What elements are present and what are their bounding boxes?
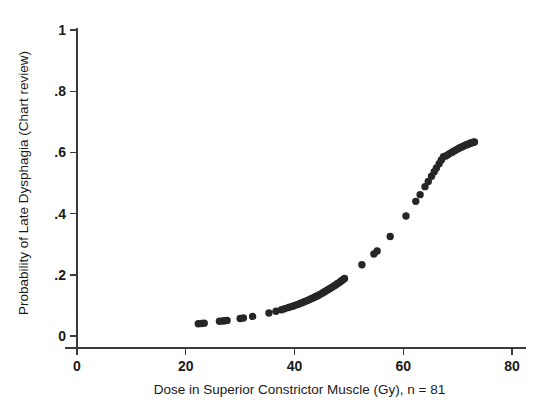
data-point — [265, 309, 272, 316]
data-point — [373, 247, 380, 254]
data-point — [358, 261, 365, 268]
y-tick-label-3: .6 — [54, 144, 66, 160]
y-tick-label-5: 1 — [58, 22, 66, 38]
axis-labels: 0.2.4.6.81020406080Dose in Superior Cons… — [16, 22, 520, 397]
data-point — [341, 275, 348, 282]
scatter-plot-figure: 0.2.4.6.81020406080Dose in Superior Cons… — [0, 0, 555, 403]
y-tick-label-2: .4 — [54, 206, 66, 222]
data-point — [223, 317, 230, 324]
y-axis-title: Probability of Late Dysphagia (Chart rev… — [16, 51, 31, 315]
plot-canvas: 0.2.4.6.81020406080Dose in Superior Cons… — [0, 0, 555, 403]
x-tick-label-3: 60 — [395, 358, 411, 374]
x-tick-label-2: 40 — [287, 358, 303, 374]
data-point — [416, 191, 423, 198]
data-point — [402, 212, 409, 219]
y-tick-label-0: 0 — [58, 328, 66, 344]
y-tick-label-4: .8 — [54, 83, 66, 99]
data-point — [387, 233, 394, 240]
y-tick-label-1: .2 — [54, 267, 66, 283]
data-point — [412, 198, 419, 205]
data-point — [240, 314, 247, 321]
data-point — [201, 319, 208, 326]
x-tick-label-4: 80 — [504, 358, 520, 374]
data-point — [471, 138, 478, 145]
x-tick-label-1: 20 — [178, 358, 194, 374]
data-point — [249, 313, 256, 320]
x-tick-label-0: 0 — [73, 358, 81, 374]
data-points — [195, 138, 479, 327]
x-axis-title: Dose in Superior Constrictor Muscle (Gy)… — [154, 382, 445, 397]
